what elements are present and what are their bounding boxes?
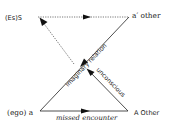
schema-l-diagram: (Es)S a′ other (ego) a A Other imaginary… [0, 0, 173, 129]
edge-to-subject-dotted [42, 21, 74, 64]
edge-label-missed: missed encounter [56, 114, 118, 122]
arrowhead-bottom-icon [81, 109, 90, 114]
node-a-prime-other-label: a′ other [132, 11, 161, 20]
edge-label-imaginary: imaginary relation [64, 42, 109, 89]
node-ego-label: (ego) a [7, 108, 34, 117]
arrowhead-subject-icon [40, 18, 48, 27]
node-big-other-label: A Other [134, 109, 160, 117]
arrowhead-top-right-icon [83, 15, 91, 20]
node-subject-label: (Es)S [5, 14, 22, 22]
